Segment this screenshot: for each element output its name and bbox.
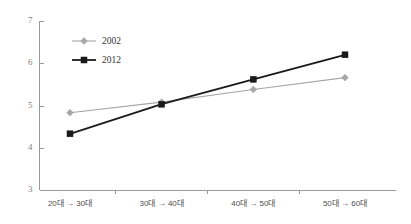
y-tick-label: 3 <box>28 184 33 194</box>
legend-marker-icon <box>81 38 88 45</box>
y-tick-label: 4 <box>28 142 33 152</box>
data-point <box>67 109 74 116</box>
chart-legend: 20022012 <box>72 36 121 65</box>
series-line <box>70 78 345 113</box>
data-point <box>342 74 349 81</box>
x-axis-ticks: 20대 → 30대30대 → 40대40대 → 50대50대 → 60대 <box>48 190 367 208</box>
series-2002 <box>67 74 349 116</box>
x-tick-label: 20대 → 30대 <box>48 199 92 208</box>
chart-plot-area: 34567 20대 → 30대30대 → 40대40대 → 50대50대 → 6… <box>0 0 411 224</box>
data-point <box>342 52 348 58</box>
legend-marker-icon <box>81 57 87 63</box>
x-tick-label: 30대 → 40대 <box>140 199 184 208</box>
legend-item-2002[interactable]: 2002 <box>72 36 121 46</box>
data-point <box>250 86 257 93</box>
x-tick-label: 40대 → 50대 <box>231 199 275 208</box>
x-tick-label: 50대 → 60대 <box>323 199 367 208</box>
legend-item-2012[interactable]: 2012 <box>72 55 121 65</box>
y-tick-label: 7 <box>28 15 33 25</box>
legend-label: 2012 <box>102 55 121 65</box>
y-tick-label: 5 <box>28 100 33 110</box>
data-point <box>250 76 256 82</box>
y-tick-label: 6 <box>28 57 33 67</box>
line-chart: 34567 20대 → 30대30대 → 40대40대 → 50대50대 → 6… <box>0 0 411 224</box>
series-line <box>70 55 345 134</box>
data-point <box>159 101 165 107</box>
data-point <box>67 131 73 137</box>
legend-label: 2002 <box>102 36 121 46</box>
y-axis-ticks: 34567 <box>28 15 44 194</box>
